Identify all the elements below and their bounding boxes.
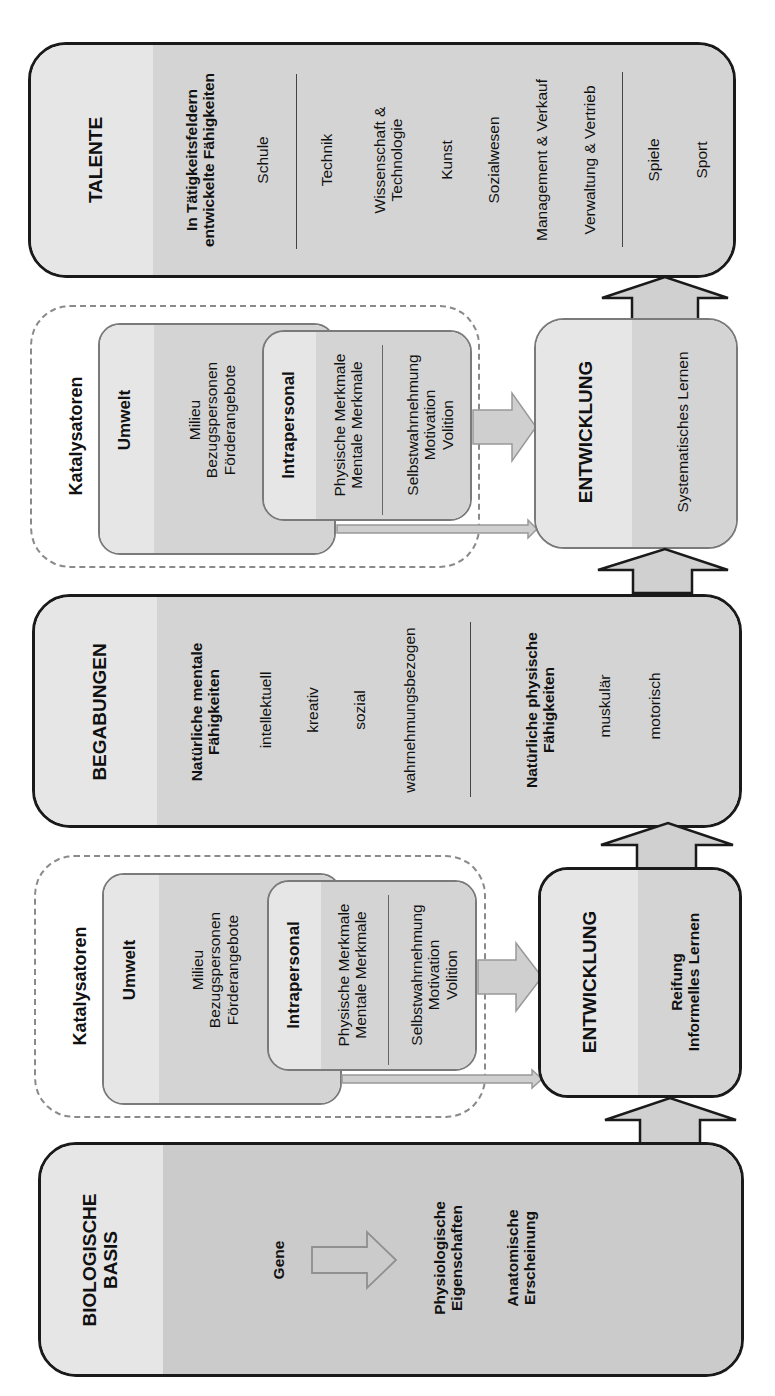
biologische-basis-result-1: Physiologische Eigenschaften xyxy=(431,1201,466,1315)
biologische-basis-result-2: Anatomische Erscheinung xyxy=(504,1209,539,1306)
gene-arrow-icon xyxy=(0,0,775,1396)
